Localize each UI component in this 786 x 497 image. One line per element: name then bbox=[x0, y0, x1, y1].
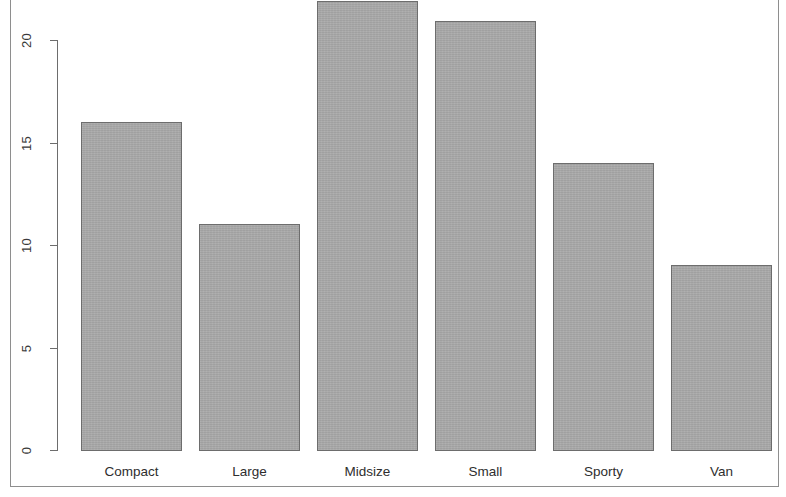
y-tick-mark-3 bbox=[50, 143, 58, 144]
x-tick-label-van: Van bbox=[671, 464, 772, 479]
y-tick-label-0: 0 bbox=[19, 431, 34, 471]
y-tick-label-3: 15 bbox=[19, 124, 34, 164]
x-tick-label-large: Large bbox=[199, 464, 300, 479]
y-tick-label-2: 10 bbox=[19, 226, 34, 266]
bar-small[interactable] bbox=[435, 21, 536, 451]
x-tick-label-compact: Compact bbox=[81, 464, 182, 479]
y-tick-mark-4 bbox=[50, 40, 58, 41]
y-tick-label-4: 20 bbox=[19, 21, 34, 61]
bar-midsize[interactable] bbox=[317, 1, 418, 451]
y-tick-mark-0 bbox=[50, 450, 58, 451]
y-tick-mark-2 bbox=[50, 245, 58, 246]
x-tick-label-midsize: Midsize bbox=[317, 464, 418, 479]
y-tick-label-1: 5 bbox=[19, 329, 34, 369]
chart-page: 0 5 10 15 20 Compact Large Midsize Small… bbox=[0, 0, 786, 497]
bar-sporty[interactable] bbox=[553, 163, 654, 451]
bar-van[interactable] bbox=[671, 265, 772, 451]
y-tick-mark-1 bbox=[50, 348, 58, 349]
x-tick-label-small: Small bbox=[435, 464, 536, 479]
x-tick-label-sporty: Sporty bbox=[553, 464, 654, 479]
bar-large[interactable] bbox=[199, 224, 300, 451]
plot-area: 0 5 10 15 20 Compact Large Midsize Small… bbox=[0, 0, 786, 497]
bar-compact[interactable] bbox=[81, 122, 182, 451]
